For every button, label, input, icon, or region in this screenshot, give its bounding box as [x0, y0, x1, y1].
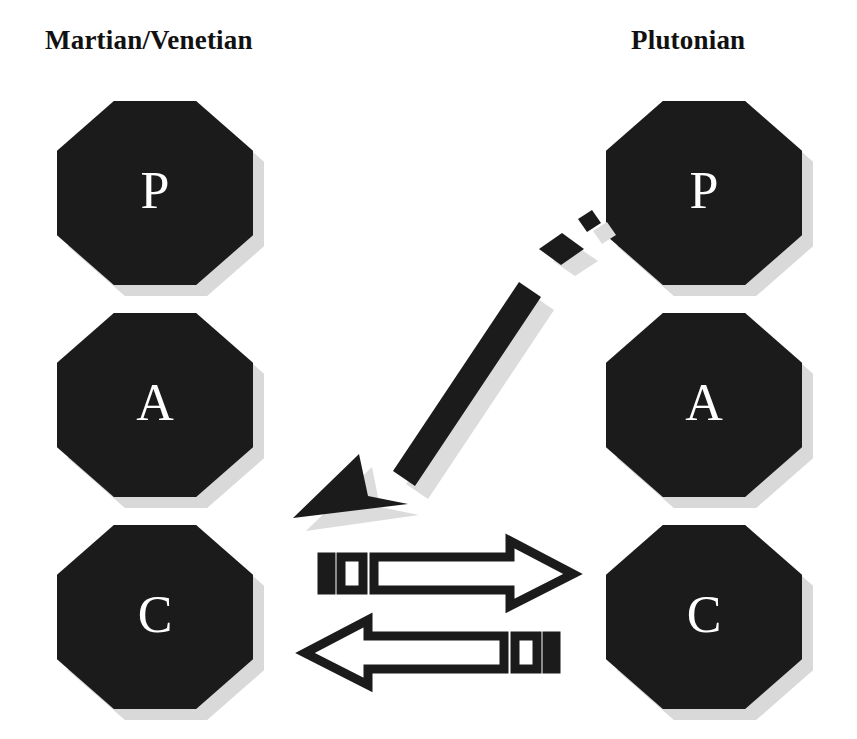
octagon-shape: A — [57, 313, 253, 497]
diagonal-arrow-shadow-head — [306, 467, 419, 531]
octagon-shape: C — [606, 525, 802, 709]
column-heading-right: Plutonian — [631, 27, 745, 54]
arrow-left-tail-segment-1 — [515, 636, 537, 669]
diagonal-arrow[interactable] — [293, 210, 616, 531]
column-heading-left: Martian/Venetian — [45, 27, 253, 54]
diagonal-arrow-shaft — [393, 282, 541, 486]
node-left-p[interactable]: P — [57, 101, 253, 285]
node-label: P — [141, 165, 170, 217]
arrow-left-tail-segment-2 — [547, 636, 556, 669]
arrow-right-tail-segment-2 — [322, 557, 331, 590]
node-right-p[interactable]: P — [606, 101, 802, 285]
diagram-canvas: Martian/Venetian Plutonian P A C P A — [0, 0, 857, 739]
diagonal-arrow-tail-segment-3 — [578, 210, 601, 232]
node-label: A — [685, 377, 723, 429]
arrow-right-tail-segment-1 — [341, 557, 363, 590]
node-left-a[interactable]: A — [57, 313, 253, 497]
arrow-right[interactable] — [322, 541, 573, 606]
node-label: C — [138, 589, 173, 641]
diagonal-arrow-head — [293, 454, 408, 518]
node-label: C — [687, 589, 722, 641]
octagon-shape: A — [606, 313, 802, 497]
node-label: P — [690, 165, 719, 217]
arrow-left[interactable] — [305, 620, 556, 685]
arrow-right-body — [374, 541, 573, 606]
node-label: A — [136, 377, 174, 429]
octagon-shape: P — [57, 101, 253, 285]
diagonal-arrow-shadow-shaft — [406, 295, 554, 499]
diagonal-arrow-tail-segment-2 — [539, 233, 584, 265]
octagon-shape: P — [606, 101, 802, 285]
node-left-c[interactable]: C — [57, 525, 253, 709]
node-right-c[interactable]: C — [606, 525, 802, 709]
diagonal-arrow-shadow-seg2 — [553, 246, 598, 276]
octagon-shape: C — [57, 525, 253, 709]
arrow-left-body — [305, 620, 504, 685]
node-right-a[interactable]: A — [606, 313, 802, 497]
